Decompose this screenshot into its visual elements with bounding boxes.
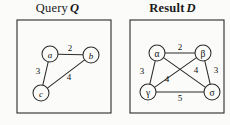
edge-weight-a-c: 3 (36, 66, 41, 76)
node-label-beta: β (201, 49, 206, 59)
edge-weight-c-b: 4 (67, 72, 72, 82)
graph-query: 234abc (17, 20, 111, 113)
edge-alpha-gamma (150, 61, 155, 84)
node-label-sigma: σ (209, 88, 214, 98)
graph-canvas: 234abc234435αβγσ (0, 0, 230, 125)
node-label-gamma: γ (145, 88, 150, 98)
graph-result: 234435αβγσ (130, 20, 224, 113)
edge-weight-alpha-gamma: 3 (140, 66, 145, 76)
edge-weight-alpha-beta: 2 (178, 42, 183, 52)
edge-weight-alpha-sigma: 4 (194, 65, 199, 75)
edge-a-b (58, 54, 83, 55)
edge-beta-sigma (205, 61, 210, 84)
edge-a-c (43, 62, 48, 85)
node-label-b: b (89, 51, 94, 61)
panel-frame-query (17, 20, 111, 113)
edge-weight-beta-sigma: 3 (214, 65, 219, 75)
node-label-alpha: α (155, 49, 160, 59)
edge-weight-gamma-sigma: 5 (178, 93, 183, 103)
edge-weight-a-b: 2 (68, 43, 73, 53)
node-label-a: a (48, 50, 53, 60)
node-label-c: c (39, 89, 43, 99)
edge-alpha-sigma (164, 58, 206, 88)
edge-beta-gamma (155, 58, 197, 88)
graph-matching-figure: QueryQ ResultD 234abc234435αβγσ (0, 0, 230, 125)
edge-weight-beta-gamma: 4 (165, 74, 170, 84)
